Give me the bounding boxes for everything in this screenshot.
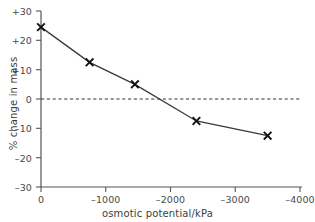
y-axis-ticks	[36, 11, 41, 187]
x-tick-label-minus1000: –1000	[91, 194, 120, 205]
data-point-markers	[37, 23, 271, 139]
x-axis-ticks	[41, 187, 300, 192]
y-axis-title: % change in mass	[8, 39, 19, 169]
y-tick-label-minus30: –30	[2, 182, 32, 193]
x-tick-label-0: 0	[38, 194, 44, 205]
y-tick-label-30: +30	[2, 6, 32, 17]
data-point-marker	[86, 59, 94, 67]
data-point-marker	[131, 81, 139, 89]
x-tick-label-minus4000: –4000	[285, 194, 314, 205]
x-tick-label-minus3000: –3000	[221, 194, 250, 205]
x-axis-title: osmotic potential/kPa	[0, 208, 315, 219]
chart-container: +30 +20 +10 0 –10 –20 –30 0 –1000 –2000 …	[0, 0, 315, 222]
plot-area	[0, 0, 315, 222]
data-series-line	[41, 27, 268, 136]
x-tick-label-minus2000: –2000	[156, 194, 185, 205]
